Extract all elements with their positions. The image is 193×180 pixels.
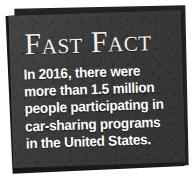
fact-body-line: in the United States. [25,131,167,153]
fact-title: Fast Fact [24,25,171,60]
fact-card-content: Fast Fact In 2016, there were more than … [9,10,186,168]
fast-fact-graphic: Fast Fact In 2016, there were more than … [0,0,193,180]
fact-card: Fast Fact In 2016, there were more than … [9,10,186,168]
fact-body: In 2016, there were more than 1.5 millio… [23,62,174,153]
